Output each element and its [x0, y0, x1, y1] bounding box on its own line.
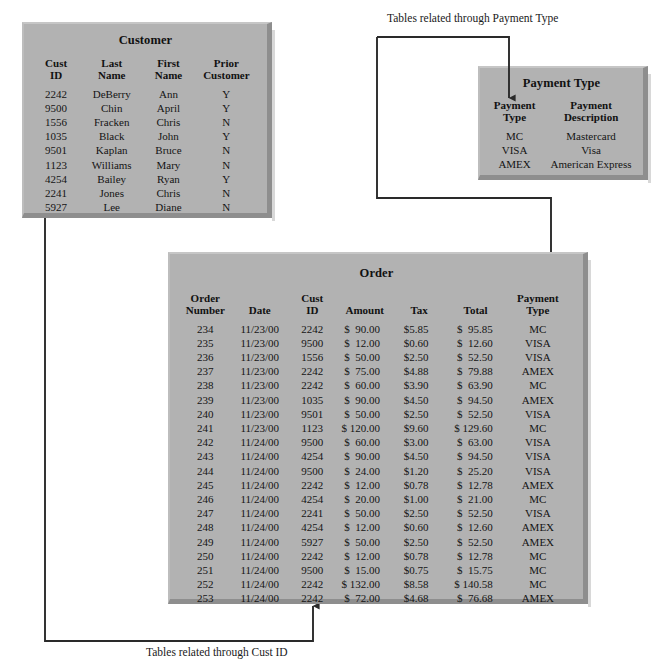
table-cell: 11/24/00 [231, 464, 289, 478]
table-cell: $3.90 [394, 378, 445, 392]
table-cell: $ 50.00 [336, 350, 394, 364]
table-cell: MC [507, 492, 569, 506]
table-cell: Chris [141, 186, 195, 200]
table-header-row: Payment Type Payment Description [484, 99, 637, 129]
table-cell: 1556 [289, 350, 336, 364]
table-cell: April [141, 101, 195, 115]
table-cell: 2242 [289, 577, 336, 591]
table-header-row: Order Number Date Cust ID Amount Tax Tot… [180, 292, 569, 322]
table-cell: 11/24/00 [231, 591, 289, 605]
table-cell: $ 90.00 [336, 449, 394, 463]
table-cell: Visa [545, 143, 637, 157]
table-cell: 238 [180, 378, 231, 392]
table-cell: $ 15.00 [336, 563, 394, 577]
table-cell: $4.50 [394, 393, 445, 407]
table-cell: 4254 [289, 492, 336, 506]
table-cell: 2242 [289, 591, 336, 605]
table-row: 1556FrackenChrisN [30, 115, 257, 129]
table-row: 25111/24/009500$ 15.00$0.75$ 15.75MC [180, 563, 569, 577]
table-cell: 11/24/00 [231, 506, 289, 520]
column-header-total: Total [444, 292, 506, 322]
table-cell: $4.50 [394, 449, 445, 463]
table-cell: $4.88 [394, 364, 445, 378]
table-cell: 11/24/00 [231, 520, 289, 534]
table-row: 23711/23/002242$ 75.00$4.88$ 79.88AMEX [180, 364, 569, 378]
table-cell: $ 76.68 [444, 591, 506, 605]
table-row: 23411/23/002242$ 90.00$5.85$ 95.85MC [180, 322, 569, 336]
table-cell: 9500 [289, 464, 336, 478]
customer-table-panel: Customer Cust ID Last Name First Name Pr… [22, 22, 272, 218]
table-cell: MC [484, 129, 545, 143]
table-cell: $ 140.58 [444, 577, 506, 591]
column-header-last-name: Last Name [82, 57, 141, 87]
table-cell: $ 60.00 [336, 378, 394, 392]
diagram-canvas: Customer Cust ID Last Name First Name Pr… [0, 0, 659, 667]
table-cell: N [196, 200, 257, 214]
table-cell: $ 25.20 [444, 464, 506, 478]
table-cell: 11/24/00 [231, 492, 289, 506]
table-cell: VISA [507, 350, 569, 364]
table-row: 2241JonesChrisN [30, 186, 257, 200]
table-cell: VISA [507, 506, 569, 520]
table-cell: MC [507, 549, 569, 563]
table-cell: 251 [180, 563, 231, 577]
table-row: 23611/23/001556$ 50.00$2.50$ 52.50VISA [180, 350, 569, 364]
table-row: 24011/23/009501$ 50.00$2.50$ 52.50VISA [180, 407, 569, 421]
table-cell: 2242 [289, 549, 336, 563]
table-cell: 11/23/00 [231, 393, 289, 407]
table-cell: $ 94.50 [444, 393, 506, 407]
table-cell: 9501 [289, 407, 336, 421]
table-cell: Y [196, 87, 257, 101]
table-cell: 239 [180, 393, 231, 407]
table-cell: Chin [82, 101, 141, 115]
table-cell: 245 [180, 478, 231, 492]
table-cell: AMEX [507, 520, 569, 534]
table-row: VISAVisa [484, 143, 637, 157]
table-row: 24911/24/005927$ 50.00$2.50$ 52.50AMEX [180, 535, 569, 549]
table-cell: $9.60 [394, 421, 445, 435]
table-cell: Fracken [82, 115, 141, 129]
table-cell: $ 12.60 [444, 336, 506, 350]
table-cell: 244 [180, 464, 231, 478]
table-cell: 11/24/00 [231, 435, 289, 449]
table-cell: $ 15.75 [444, 563, 506, 577]
table-cell: $0.60 [394, 520, 445, 534]
table-cell: 242 [180, 435, 231, 449]
annotation-payment-type-link: Tables related through Payment Type [387, 12, 558, 24]
table-row: 24611/24/004254$ 20.00$1.00$ 21.00MC [180, 492, 569, 506]
table-cell: $ 12.00 [336, 336, 394, 350]
table-cell: VISA [507, 336, 569, 350]
table-row: 24111/23/001123$ 120.00$9.60$ 129.60MC [180, 421, 569, 435]
table-cell: Mary [141, 158, 195, 172]
table-cell: 4254 [289, 449, 336, 463]
table-cell: $ 60.00 [336, 435, 394, 449]
table-cell: 2241 [289, 506, 336, 520]
annotation-cust-id-link: Tables related through Cust ID [146, 646, 288, 658]
table-cell: $ 50.00 [336, 535, 394, 549]
table-cell: 1556 [30, 115, 82, 129]
table-cell: VISA [484, 143, 545, 157]
table-cell: 250 [180, 549, 231, 563]
table-cell: 2242 [30, 87, 82, 101]
table-cell: 11/24/00 [231, 563, 289, 577]
table-cell: 11/23/00 [231, 364, 289, 378]
table-row: 24511/24/002242$ 12.00$0.78$ 12.78AMEX [180, 478, 569, 492]
table-cell: $ 63.90 [444, 378, 506, 392]
table-row: 1035BlackJohnY [30, 129, 257, 143]
table-cell: $0.78 [394, 478, 445, 492]
table-cell: $ 24.00 [336, 464, 394, 478]
column-header-payment-type: Payment Type [484, 99, 545, 129]
table-cell: $ 52.50 [444, 407, 506, 421]
table-cell: American Express [545, 157, 637, 171]
table-cell: $ 12.00 [336, 478, 394, 492]
table-cell: MC [507, 421, 569, 435]
table-cell: Black [82, 129, 141, 143]
table-cell: Bailey [82, 172, 141, 186]
table-cell: 243 [180, 449, 231, 463]
table-cell: $ 75.00 [336, 364, 394, 378]
table-cell: $ 21.00 [444, 492, 506, 506]
table-cell: $1.00 [394, 492, 445, 506]
column-header-order-number: Order Number [180, 292, 231, 322]
table-cell: $4.68 [394, 591, 445, 605]
table-cell: Chris [141, 115, 195, 129]
